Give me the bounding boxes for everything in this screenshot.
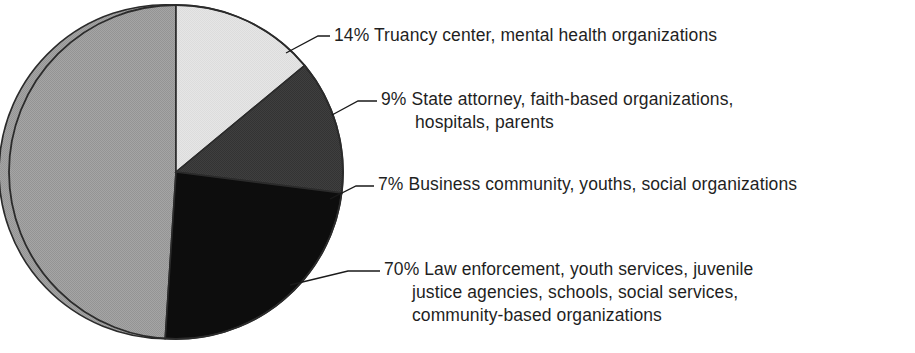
pie-label-business-community: 7% Business community, youths, social or… — [378, 173, 797, 196]
pie-label-line-1: 70% Law enforcement, youth services, juv… — [384, 259, 753, 279]
pie-slice-business-community — [165, 172, 342, 339]
pie-slice-law-enforcement — [0, 5, 176, 339]
pie-label-line-3: community-based organizations — [384, 304, 753, 327]
pie-label-line-2: hospitals, parents — [381, 111, 733, 134]
leader-line-truancy-center — [286, 36, 330, 53]
pie-label-line-1: 9% State attorney, faith-based organizat… — [381, 89, 733, 109]
pie-chart: 14% Truancy center, mental health organi… — [0, 0, 915, 353]
leader-line-state-attorney — [332, 101, 377, 115]
pie-label-line-2: justice agencies, schools, social servic… — [384, 281, 753, 304]
pie-label-law-enforcement: 70% Law enforcement, youth services, juv… — [384, 258, 753, 327]
pie-label-line-1: 7% Business community, youths, social or… — [378, 174, 797, 194]
pie-label-truancy-center: 14% Truancy center, mental health organi… — [334, 24, 717, 47]
pie-label-line-1: 14% Truancy center, mental health organi… — [334, 25, 717, 45]
pie-label-state-attorney: 9% State attorney, faith-based organizat… — [381, 88, 733, 134]
